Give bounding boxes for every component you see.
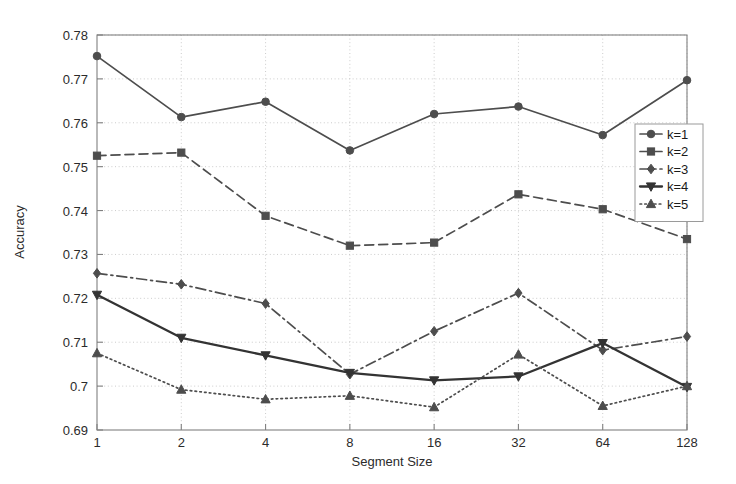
x-tick-label: 128	[676, 435, 698, 450]
legend-label-k4[interactable]: k=4	[667, 179, 688, 194]
x-tick-label: 2	[178, 435, 185, 450]
y-tick-label: 0.7	[70, 379, 88, 394]
y-tick-label: 0.78	[63, 28, 88, 43]
data-point-marker	[430, 110, 438, 118]
legend-label-k5[interactable]: k=5	[667, 197, 688, 212]
y-tick-label: 0.71	[63, 335, 88, 350]
data-point-marker	[262, 98, 270, 106]
y-tick-label: 0.76	[63, 116, 88, 131]
data-point-marker	[647, 148, 654, 155]
legend-label-k1[interactable]: k=1	[667, 127, 688, 142]
y-tick-label: 0.73	[63, 247, 88, 262]
x-tick-label: 32	[511, 435, 525, 450]
data-point-marker	[515, 103, 523, 111]
y-tick-label: 0.77	[63, 72, 88, 87]
data-point-marker	[177, 113, 185, 121]
chart-figure: 0.690.70.710.720.730.740.750.760.770.78 …	[0, 0, 736, 484]
data-point-marker	[178, 149, 185, 156]
x-tick-label: 1	[93, 435, 100, 450]
y-axis-label: Accuracy	[12, 205, 27, 259]
x-axis-label: Segment Size	[352, 454, 433, 469]
data-point-marker	[262, 212, 269, 219]
data-point-marker	[683, 235, 690, 242]
y-tick-label: 0.72	[63, 291, 88, 306]
data-point-marker	[515, 191, 522, 198]
legend[interactable]: k=1k=2k=3k=4k=5	[635, 124, 703, 222]
x-tick-label: 16	[427, 435, 441, 450]
data-point-marker	[346, 147, 354, 155]
data-point-marker	[647, 130, 655, 138]
data-point-marker	[683, 76, 691, 84]
data-point-marker	[93, 52, 101, 60]
data-point-marker	[431, 239, 438, 246]
data-point-marker	[599, 206, 606, 213]
x-tick-label: 8	[346, 435, 353, 450]
y-tick-label: 0.74	[63, 204, 88, 219]
figure-background	[0, 0, 736, 484]
data-point-marker	[93, 152, 100, 159]
accuracy-vs-segment-size-line-chart: 0.690.70.710.720.730.740.750.760.770.78 …	[0, 0, 736, 484]
x-tick-label: 64	[595, 435, 609, 450]
legend-label-k3[interactable]: k=3	[667, 162, 688, 177]
data-point-marker	[346, 242, 353, 249]
y-tick-label: 0.75	[63, 160, 88, 175]
data-point-marker	[599, 131, 607, 139]
legend-label-k2[interactable]: k=2	[667, 144, 688, 159]
x-tick-label: 4	[262, 435, 269, 450]
y-tick-label: 0.69	[63, 423, 88, 438]
